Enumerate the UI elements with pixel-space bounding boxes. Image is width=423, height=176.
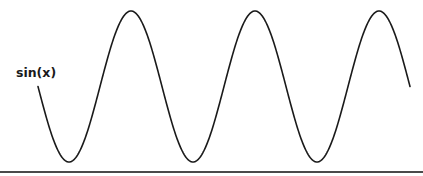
sine-curve [38, 11, 410, 162]
series-label-sin-x: sin(x) [16, 65, 56, 80]
sine-chart: sin(x) [0, 0, 423, 176]
